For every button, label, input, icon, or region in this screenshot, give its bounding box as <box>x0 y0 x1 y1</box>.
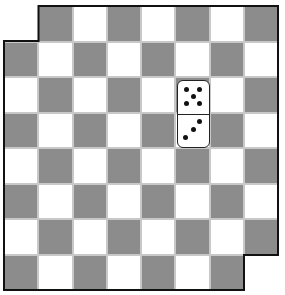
board-outline <box>0 0 285 295</box>
